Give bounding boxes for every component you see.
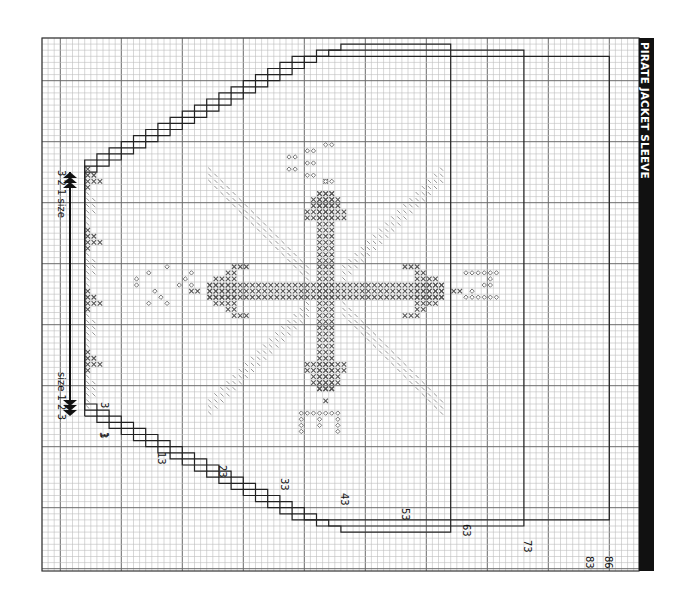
row-label: 83	[584, 556, 595, 569]
row-label: 3	[98, 432, 109, 438]
row-label: 86	[603, 556, 614, 569]
chart-title: PIRATE JACKET SLEEVE	[639, 42, 651, 179]
sleeve-chart: 3 2 1 sizesize 1 2 3 1331323334353637383…	[0, 0, 693, 606]
row-label: 63	[461, 524, 472, 537]
knitting-grid	[42, 38, 640, 571]
size-label-bottom: size 1 2 3	[56, 372, 67, 420]
row-label: 43	[339, 493, 350, 506]
row-label: 13	[156, 452, 167, 465]
row-label: 33	[279, 478, 290, 491]
row-labels: 133132333435363738386	[98, 402, 614, 569]
row-label: 23	[217, 465, 228, 478]
row-label: 3	[99, 402, 110, 408]
size-label-top: 3 2 1 size	[56, 170, 67, 218]
row-label: 73	[522, 540, 533, 553]
row-label: 53	[400, 508, 411, 521]
